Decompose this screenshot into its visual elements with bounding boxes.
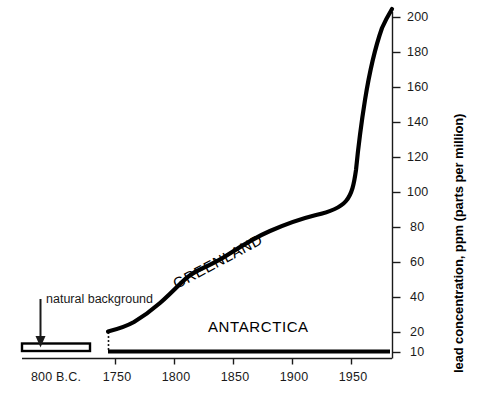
natural-background-bar	[22, 344, 90, 352]
y-tick-label-20: 20	[410, 325, 424, 339]
y-tick-label-80: 80	[410, 220, 424, 234]
chart-plot-area	[0, 0, 489, 401]
greenland-series-line	[108, 9, 392, 332]
y-tick-label-120: 120	[407, 150, 428, 164]
y-tick-label-200: 200	[407, 10, 428, 24]
y-tick-label-180: 180	[407, 45, 428, 59]
x-tick-label-800bc: 800 B.C.	[31, 370, 81, 384]
natural-background-arrow-icon	[36, 299, 46, 348]
y-tick-label-100: 100	[407, 185, 428, 199]
x-tick-label-1850: 1850	[221, 370, 250, 384]
antarctica-series-label: ANTARCTICA	[208, 318, 309, 335]
y-tick-label-60: 60	[410, 255, 424, 269]
x-tick-label-1750: 1750	[103, 370, 132, 384]
x-tick-label-1950: 1950	[339, 370, 368, 384]
y-tick-label-40: 40	[410, 290, 424, 304]
y-axis-title: lead concentration, ppm (parts per milli…	[451, 114, 466, 373]
y-tick-label-10: 10	[410, 345, 424, 359]
y-tick-label-160: 160	[407, 80, 428, 94]
y-axis-ticks	[393, 18, 401, 353]
x-tick-label-1900: 1900	[280, 370, 309, 384]
x-tick-label-1800: 1800	[162, 370, 191, 384]
x-axis-ticks	[116, 359, 352, 365]
y-tick-label-140: 140	[407, 115, 428, 129]
lead-concentration-chart: 200 180 160 140 120 100 80 60 40 20 10 l…	[0, 0, 489, 401]
natural-background-annotation-label: natural background	[46, 292, 153, 306]
